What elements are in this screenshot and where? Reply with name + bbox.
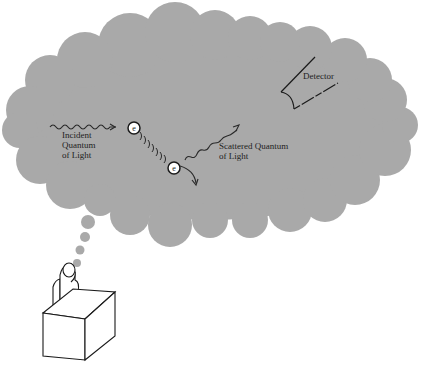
scattered-photon-label: Scattered Quantum of Light <box>219 141 288 161</box>
incident-photon-label: Incident Quantum of Light <box>62 130 96 160</box>
electron-initial-icon: e <box>128 122 140 134</box>
svg-text:e: e <box>132 124 136 133</box>
incident-label-line-2: Quantum <box>62 140 96 150</box>
scattered-label-line-1: Scattered Quantum <box>219 141 288 151</box>
incident-label-line-1: Incident <box>62 130 96 140</box>
incident-label-line-3: of Light <box>62 150 96 160</box>
electron-recoiled-icon: e <box>168 162 180 174</box>
svg-text:e: e <box>172 164 176 173</box>
detector-label: Detector <box>303 71 334 81</box>
diagram-canvas: e e <box>0 0 422 368</box>
thinker-at-desk-icon <box>43 263 115 360</box>
scattered-label-line-2: of Light <box>219 151 288 161</box>
